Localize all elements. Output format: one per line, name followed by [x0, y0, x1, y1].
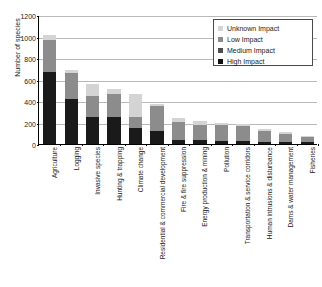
bar-group[interactable]: [65, 70, 78, 144]
x-tick-label: Hunting & trapping: [116, 147, 123, 201]
y-tick-label: 400: [24, 99, 36, 106]
legend-swatch-icon: [218, 26, 223, 31]
x-tick-label: Human intrusions & disturbance: [266, 147, 273, 239]
bar-group[interactable]: [193, 121, 206, 144]
bar-group[interactable]: [86, 84, 99, 144]
bar-group[interactable]: [301, 136, 314, 144]
stacked-bar-chart: Number of species 020040060080010001200 …: [0, 0, 322, 287]
bar-segment[interactable]: [193, 140, 206, 144]
bar-segment[interactable]: [172, 140, 185, 144]
bar-group[interactable]: [172, 118, 185, 144]
x-tick-label: Dams & water management: [287, 147, 294, 228]
x-tick-mark: [232, 144, 233, 146]
x-tick-mark: [168, 144, 169, 146]
bar-segment[interactable]: [43, 72, 56, 144]
legend-item[interactable]: Medium Impact: [218, 45, 312, 55]
x-tick-mark: [125, 144, 126, 146]
bar-segment[interactable]: [86, 96, 99, 117]
chart-legend: Unknown ImpactLow ImpactMedium ImpactHig…: [213, 19, 313, 66]
x-tick-label: Logging: [73, 147, 80, 170]
y-tick-label: 0: [32, 142, 36, 149]
legend-swatch-icon: [218, 48, 223, 53]
legend-swatch-icon: [218, 37, 223, 42]
legend-label: Medium Impact: [227, 47, 275, 54]
bar-segment[interactable]: [258, 131, 271, 142]
bar-segment[interactable]: [258, 142, 271, 144]
bar-group[interactable]: [279, 132, 292, 144]
bar-segment[interactable]: [236, 126, 249, 141]
legend-item[interactable]: Low Impact: [218, 34, 312, 44]
y-tick-mark: [37, 145, 39, 146]
x-tick-mark: [189, 144, 190, 146]
x-tick-label: Pollution: [223, 147, 230, 172]
bar-group[interactable]: [258, 129, 271, 144]
y-tick-label: 1000: [20, 34, 36, 41]
x-tick-label: Transportation & service corridors: [244, 147, 251, 244]
bar-group[interactable]: [215, 123, 228, 144]
x-tick-label: Energy production & mining: [201, 147, 208, 227]
legend-label: Low Impact: [227, 36, 263, 43]
bar-segment[interactable]: [215, 141, 228, 144]
x-tick-label: Fire & fire suppression: [180, 147, 187, 212]
bar-segment[interactable]: [172, 122, 185, 139]
bar-segment[interactable]: [86, 84, 99, 96]
x-tick-mark: [82, 144, 83, 146]
x-tick-label: Residential & commercial development: [159, 147, 166, 259]
bar-group[interactable]: [43, 35, 56, 144]
x-tick-mark: [146, 144, 147, 146]
y-tick-label: 1200: [20, 13, 36, 20]
x-tick-mark: [297, 144, 298, 146]
bar-segment[interactable]: [236, 141, 249, 144]
bar-segment[interactable]: [65, 73, 78, 100]
bar-segment[interactable]: [43, 40, 56, 72]
bar-group[interactable]: [150, 104, 163, 144]
bar-segment[interactable]: [86, 117, 99, 144]
bar-segment[interactable]: [129, 94, 142, 117]
legend-label: Unknown Impact: [227, 25, 279, 32]
bar-segment[interactable]: [279, 134, 292, 142]
bar-segment[interactable]: [107, 94, 120, 116]
bar-segment[interactable]: [301, 142, 314, 144]
bar-segment[interactable]: [193, 125, 206, 140]
x-tick-label: Fisheries: [309, 147, 316, 173]
y-tick-label: 800: [24, 56, 36, 63]
bar-segment[interactable]: [65, 99, 78, 144]
x-tick-label: Agriculture: [51, 147, 58, 178]
bar-segment[interactable]: [215, 125, 228, 141]
x-tick-label: Invasive species: [94, 147, 101, 195]
bar-segment[interactable]: [150, 131, 163, 144]
x-tick-mark: [318, 144, 319, 146]
y-tick-label: 600: [24, 77, 36, 84]
bar-segment[interactable]: [279, 142, 292, 144]
bar-segment[interactable]: [150, 106, 163, 131]
x-axis-labels: AgricultureLoggingInvasive speciesHuntin…: [38, 147, 317, 287]
x-tick-mark: [103, 144, 104, 146]
x-tick-mark: [275, 144, 276, 146]
bar-segment[interactable]: [129, 128, 142, 144]
bar-group[interactable]: [107, 89, 120, 144]
x-tick-label: Climate change: [137, 147, 144, 192]
bar-group[interactable]: [129, 94, 142, 144]
x-tick-mark: [60, 144, 61, 146]
bar-group[interactable]: [236, 124, 249, 144]
legend-item[interactable]: Unknown Impact: [218, 23, 312, 33]
legend-item[interactable]: High Impact: [218, 56, 312, 66]
y-tick-label: 200: [24, 120, 36, 127]
bar-segment[interactable]: [129, 117, 142, 129]
bar-segment[interactable]: [107, 117, 120, 144]
legend-swatch-icon: [218, 59, 223, 64]
legend-label: High Impact: [227, 58, 264, 65]
x-tick-mark: [254, 144, 255, 146]
x-tick-mark: [211, 144, 212, 146]
